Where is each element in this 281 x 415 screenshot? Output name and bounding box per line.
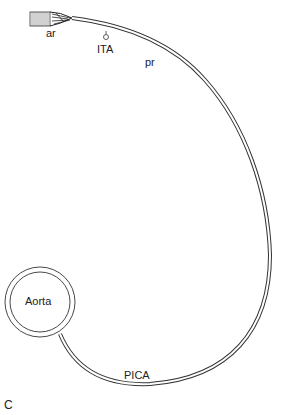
- label-pica: PICA: [124, 370, 150, 381]
- label-ita: ITA: [97, 44, 113, 55]
- diagram-canvas: [0, 0, 281, 415]
- ita-loop: [104, 31, 109, 40]
- stent-graft: [30, 12, 72, 26]
- label-ar: ar: [46, 28, 56, 39]
- vessel-path: [60, 18, 270, 384]
- label-aorta: Aorta: [25, 296, 51, 307]
- label-pr: pr: [145, 57, 155, 68]
- panel-label: C: [4, 398, 13, 412]
